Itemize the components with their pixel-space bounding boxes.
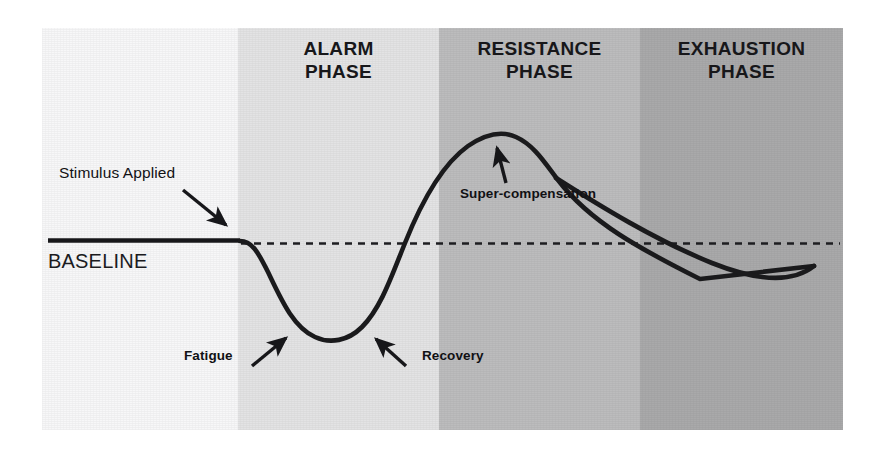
fatigue-label: Fatigue [184,348,233,363]
phase-band-exhaustion [640,28,843,430]
stimulus-applied-label: Stimulus Applied [59,164,175,182]
baseline-label: BASELINE [48,250,147,273]
supercompensation-label: Super-compensation [460,186,596,201]
general-adaptation-syndrome-figure: ALARM PHASE RESISTANCE PHASE EXHAUSTION … [0,0,883,470]
phase-label-exhaustion: EXHAUSTION PHASE [640,37,843,83]
recovery-label: Recovery [422,348,484,363]
phase-label-resistance: RESISTANCE PHASE [439,37,640,83]
phase-band-pre [42,28,238,430]
phase-band-resistance [439,28,640,430]
figure-plate: ALARM PHASE RESISTANCE PHASE EXHAUSTION … [42,28,843,430]
phase-label-alarm: ALARM PHASE [238,37,439,83]
phase-band-alarm [238,28,439,430]
